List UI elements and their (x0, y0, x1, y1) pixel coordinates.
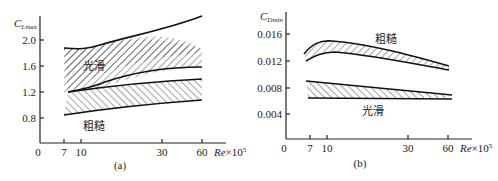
x-axis-label-a: Re×105 (213, 146, 247, 158)
x-axis-label-b: Re×105 (459, 142, 493, 154)
x-tick-b-0: 0 (281, 142, 287, 154)
y-tick-b-1: 0.012 (257, 55, 282, 67)
y-tick-a-0: 2.0 (22, 34, 36, 46)
y-axis-label-b: CDmin (260, 10, 283, 24)
y-tick-b-3: 0.004 (257, 108, 282, 120)
y-axis-label-a: CLmax (14, 17, 38, 31)
caption-a: (a) (114, 159, 127, 172)
x-tick-a-3: 30 (157, 146, 169, 158)
x-tick-b-3: 30 (403, 142, 415, 154)
figure-canvas: 2.0 1.6 1.2 0.8 0 7 10 30 60 CLmax Re×10… (0, 0, 498, 181)
chart-a: 2.0 1.6 1.2 0.8 0 7 10 30 60 CLmax Re×10… (14, 16, 247, 172)
y-tick-b-2: 0.008 (257, 82, 282, 94)
label-rough-b: 粗糙 (375, 32, 397, 46)
x-tick-a-1: 7 (61, 146, 67, 158)
chart-b: 0.016 0.012 0.008 0.004 0 7 10 30 60 CDm… (257, 10, 493, 170)
y-tick-a-2: 1.2 (22, 86, 36, 98)
x-tick-b-4: 60 (443, 142, 455, 154)
y-tick-a-3: 0.8 (22, 112, 36, 124)
label-smooth-b: 光滑 (362, 104, 384, 118)
x-tick-b-1: 7 (307, 142, 313, 154)
x-tick-a-4: 60 (197, 146, 209, 158)
curve-smooth-lower-b (308, 98, 452, 99)
y-tick-a-1: 1.6 (22, 60, 36, 72)
x-tick-b-2: 10 (322, 142, 334, 154)
x-tick-a-0: 0 (35, 146, 41, 158)
x-tick-a-2: 10 (76, 146, 88, 158)
y-tick-b-0: 0.016 (257, 28, 282, 40)
label-rough-a: 粗糙 (83, 119, 105, 133)
caption-b: (b) (354, 157, 367, 170)
label-smooth-a: 光滑 (83, 59, 105, 73)
